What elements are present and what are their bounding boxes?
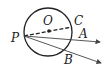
ray-pa [24,36,100,42]
label-c: C [74,14,83,28]
label-o: O [43,14,53,28]
center-point-o [47,29,51,33]
label-a: A [78,27,88,41]
geometry-diagram: O C P A B [0,0,107,68]
ray-pb [24,36,101,63]
label-b: B [63,53,73,67]
label-p: P [10,31,20,45]
